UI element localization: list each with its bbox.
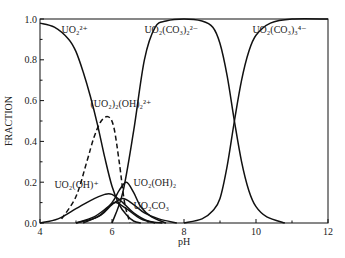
y-tick-label: 0.0 bbox=[25, 218, 38, 229]
y-tick-label: 0.8 bbox=[25, 54, 38, 65]
species-curves bbox=[40, 19, 328, 223]
species-label: UO₂²⁺ bbox=[62, 24, 88, 35]
x-tick-label: 12 bbox=[323, 226, 333, 237]
species-labels: UO₂²⁺(UO₂)₂(OH)₂²⁺UO₂(OH)⁺UO₂(OH)₂UO₂CO₃… bbox=[54, 24, 306, 210]
species-label: UO₂(OH)₂ bbox=[134, 177, 177, 189]
series-line-6 bbox=[112, 19, 285, 223]
x-tick-label: 10 bbox=[251, 226, 261, 237]
x-tick-label: 4 bbox=[38, 226, 43, 237]
species-label: UO₂(CO₃)₃⁴⁻ bbox=[252, 24, 306, 36]
series-line-7 bbox=[184, 19, 328, 223]
x-axis-title: pH bbox=[178, 236, 190, 247]
species-label: UO₂CO₃ bbox=[134, 200, 169, 211]
plot-frame bbox=[40, 19, 328, 223]
plot-area-border bbox=[40, 19, 328, 223]
species-label: (UO₂)₂(OH)₂²⁺ bbox=[90, 98, 151, 110]
species-label: UO₂(CO₃)₂²⁻ bbox=[144, 24, 198, 36]
axis-ticks bbox=[40, 19, 328, 223]
axis-tick-labels: 46810120.00.20.40.60.81.0 bbox=[25, 14, 334, 238]
species-label: UO₂(OH)⁺ bbox=[54, 179, 98, 191]
y-axis-title: FRACTION bbox=[3, 96, 14, 146]
y-tick-label: 0.6 bbox=[25, 95, 38, 106]
speciation-chart: 46810120.00.20.40.60.81.0 pH FRACTION UO… bbox=[0, 0, 345, 258]
y-tick-label: 1.0 bbox=[25, 14, 38, 25]
x-tick-label: 6 bbox=[110, 226, 115, 237]
series-line-0 bbox=[40, 23, 141, 223]
y-tick-label: 0.4 bbox=[25, 136, 38, 147]
y-tick-label: 0.2 bbox=[25, 177, 38, 188]
